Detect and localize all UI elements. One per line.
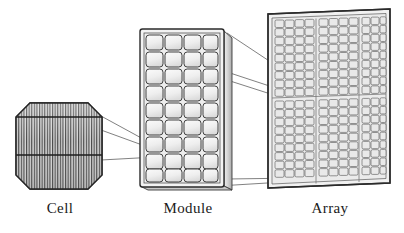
solar-cell [16, 103, 102, 189]
pv-module [140, 29, 232, 190]
caption-module: Module [140, 200, 236, 217]
array-module-r2c3 [362, 98, 386, 175]
cell-fingers [16, 103, 102, 189]
module-highlighted-cell [146, 137, 163, 152]
pv-array [268, 9, 390, 188]
caption-cell: Cell [18, 200, 102, 217]
array-module-r1c3 [362, 17, 386, 94]
caption-array: Array [285, 200, 375, 217]
module-side-face [224, 31, 232, 190]
pv-hierarchy-drawing [0, 0, 404, 233]
pv-hierarchy-figure: Cell Module Array [0, 0, 404, 233]
module-cell-grid [146, 35, 218, 182]
